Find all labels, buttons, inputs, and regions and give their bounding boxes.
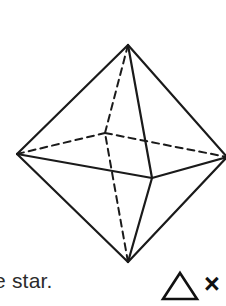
edge-top-to-back-hidden xyxy=(105,45,128,133)
octahedron-diagram xyxy=(0,0,226,306)
caption-label: e star. xyxy=(0,268,53,293)
triangle-outline-svg xyxy=(160,270,200,301)
figure-canvas: e star. × xyxy=(0,0,226,306)
multiplication-sign-icon: × xyxy=(204,271,220,298)
edge-top-to-front xyxy=(128,45,152,178)
hidden-edges-group xyxy=(17,45,226,262)
symbol-row: × xyxy=(160,268,220,302)
edge-top-to-left xyxy=(17,45,128,154)
edge-front-to-right xyxy=(152,157,226,178)
visible-edges-group xyxy=(17,45,226,262)
triangle-icon xyxy=(160,270,200,301)
edge-left-to-back-hidden xyxy=(17,133,105,154)
